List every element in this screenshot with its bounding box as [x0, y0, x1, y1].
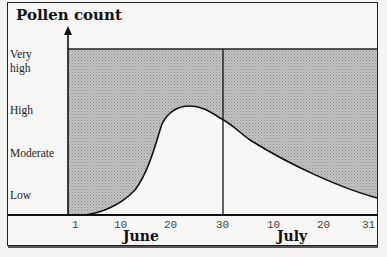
y-label-high: High — [10, 103, 33, 117]
chart-title: Pollen count — [16, 6, 122, 24]
y-axis-arrow-icon — [64, 26, 72, 35]
y-label-very-line1: Very — [10, 47, 32, 61]
x-tick-june-20: 20 — [164, 219, 177, 231]
y-label-high-line2: high — [10, 61, 32, 75]
x-tick-june-30: 30 — [216, 219, 229, 231]
x-tick-june-1: 1 — [72, 219, 79, 231]
y-label-moderate: Moderate — [10, 146, 54, 160]
month-label-june: June — [123, 228, 159, 244]
month-label-july: July — [277, 228, 307, 244]
y-label-low: Low — [10, 188, 31, 202]
x-tick-july-31: 31 — [362, 219, 375, 231]
x-tick-july-20: 20 — [317, 219, 330, 231]
y-label-very-high: Very high — [10, 47, 32, 75]
